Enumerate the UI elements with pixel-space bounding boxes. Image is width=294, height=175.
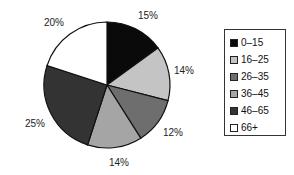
legend-swatch [230, 90, 238, 98]
legend-item-16-25: 16–25 [230, 51, 285, 68]
legend-label: 46–65 [241, 105, 269, 116]
slice-label-16-25: 14% [174, 65, 194, 76]
legend: 0–15 16–25 26–35 36–45 46–65 66+ [224, 29, 286, 136]
legend-item-66plus: 66+ [230, 119, 285, 136]
slice-label-0-15: 15% [138, 10, 158, 21]
legend-item-36-45: 36–45 [230, 85, 285, 102]
legend-label: 66+ [241, 122, 258, 133]
slice-label-36-45: 14% [109, 157, 129, 168]
legend-label: 36–45 [241, 88, 269, 99]
legend-swatch [230, 107, 238, 115]
legend-swatch [230, 124, 238, 132]
legend-swatch [230, 73, 238, 81]
slice-label-66plus: 20% [44, 17, 64, 28]
legend-item-0-15: 0–15 [230, 34, 285, 51]
legend-label: 26–35 [241, 71, 269, 82]
legend-item-46-65: 46–65 [230, 102, 285, 119]
pie-chart [0, 0, 220, 175]
slice-label-46-65: 25% [25, 118, 45, 129]
legend-swatch [230, 39, 238, 47]
legend-label: 0–15 [241, 37, 263, 48]
legend-swatch [230, 56, 238, 64]
legend-item-26-35: 26–35 [230, 68, 285, 85]
legend-label: 16–25 [241, 54, 269, 65]
slice-label-26-35: 12% [163, 127, 183, 138]
